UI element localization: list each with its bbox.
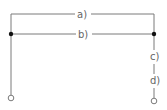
wire-b: b) — [11, 29, 154, 40]
label-a: a) — [77, 9, 87, 20]
left-terminal-icon — [8, 95, 14, 101]
label-d: d) — [150, 75, 160, 86]
label-b: b) — [78, 29, 88, 40]
wire-right-vertical: c) d) — [150, 14, 160, 98]
label-c: c) — [150, 51, 159, 62]
wiring-diagram: a) b) c) d) — [0, 0, 167, 110]
right-terminal-icon — [151, 98, 157, 104]
junction-node-left — [9, 32, 13, 36]
wire-a: a) — [11, 9, 154, 20]
junction-node-right — [152, 32, 156, 36]
